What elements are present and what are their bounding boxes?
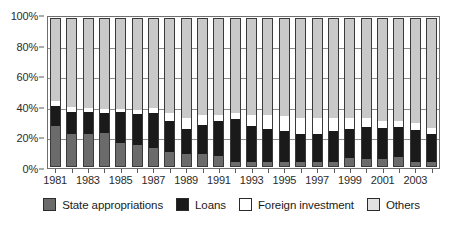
bar-1984[interactable] [99, 18, 110, 167]
chart-legend: State appropriationsLoansForeign investm… [0, 198, 463, 211]
y-axis-tick-label: 100% [11, 10, 38, 22]
bar-segment-others [313, 19, 322, 117]
y-axis-tick-label: 40% [17, 102, 38, 114]
y-axis-tick-label: 0% [23, 163, 39, 175]
bar-segment-state [84, 134, 93, 166]
bar-segment-others [51, 19, 60, 101]
legend-item-label: State appropriations [62, 199, 163, 211]
bar-1994[interactable] [262, 18, 273, 167]
bar-segment-state [280, 162, 289, 166]
bar-segment-loans [394, 127, 403, 157]
bar-segment-state [165, 152, 174, 166]
bar-1993[interactable] [246, 18, 257, 167]
x-axis-tick-label: 1999 [338, 174, 362, 186]
bar-1997[interactable] [312, 18, 323, 167]
x-axis-tick-mark [399, 169, 400, 173]
bar-segment-loans [263, 129, 272, 162]
x-axis-tick-label: 1985 [109, 174, 133, 186]
bar-1982[interactable] [66, 18, 77, 167]
bar-2000[interactable] [361, 18, 372, 167]
bar-segment-others [329, 19, 338, 117]
bar-segment-others [100, 19, 109, 109]
bar-1999[interactable] [344, 18, 355, 167]
x-axis-tick-mark [317, 169, 318, 173]
bar-segment-others [116, 19, 125, 109]
bar-segment-loans [329, 131, 338, 161]
bar-1986[interactable] [132, 18, 143, 167]
bar-segment-others [149, 19, 158, 108]
x-axis-tick-mark [55, 169, 56, 173]
legend-swatch-icon [43, 198, 56, 211]
bar-segment-others [362, 19, 371, 117]
bar-segment-loans [149, 113, 158, 148]
bar-segment-state [313, 162, 322, 166]
bar-1985[interactable] [115, 18, 126, 167]
bar-segment-foreign [182, 118, 191, 129]
bar-segment-foreign [378, 121, 387, 128]
bar-1992[interactable] [230, 18, 241, 167]
x-axis-tick-label: 1995 [273, 174, 297, 186]
x-axis-tick-label: 1987 [142, 174, 166, 186]
legend-item-1[interactable]: Loans [176, 198, 226, 211]
plot-area [47, 16, 440, 169]
x-axis-tick-mark [203, 169, 204, 173]
bar-1991[interactable] [213, 18, 224, 167]
x-axis-tick-mark [268, 169, 269, 173]
bar-segment-state [133, 145, 142, 166]
bar-segment-others [296, 19, 305, 117]
x-axis-tick-mark [366, 169, 367, 173]
bar-segment-others [263, 19, 272, 115]
bar-segment-foreign [296, 118, 305, 134]
legend-item-label: Foreign investment [258, 199, 354, 211]
legend-item-2[interactable]: Foreign investment [239, 198, 354, 211]
y-axis-tick-mark [39, 107, 44, 108]
x-axis-tick-mark [104, 169, 105, 173]
y-axis-tick-mark [39, 77, 44, 78]
y-axis-tick-mark [39, 169, 44, 170]
bar-2002[interactable] [393, 18, 404, 167]
bar-segment-loans [116, 112, 125, 143]
bar-1987[interactable] [148, 18, 159, 167]
bar-segment-foreign [411, 123, 420, 130]
y-axis-tick-mark [39, 16, 44, 17]
bar-segment-state [214, 156, 223, 166]
bar-segment-others [133, 19, 142, 110]
x-axis-tick-label: 1981 [43, 174, 67, 186]
bar-segment-foreign [214, 115, 223, 122]
bar-segment-loans [100, 113, 109, 133]
x-axis-tick-mark [383, 169, 384, 173]
bar-2004[interactable] [426, 18, 437, 167]
legend-item-0[interactable]: State appropriations [43, 198, 163, 211]
y-axis-tick-label: 80% [17, 41, 38, 53]
bar-segment-loans [214, 121, 223, 156]
bar-1996[interactable] [295, 18, 306, 167]
x-axis-tick-label: 1993 [240, 174, 264, 186]
bar-segment-foreign [329, 118, 338, 132]
x-axis-tick-label: 1991 [207, 174, 231, 186]
x-axis-tick-mark [72, 169, 73, 173]
legend-item-3[interactable]: Others [367, 198, 420, 211]
x-axis-tick-label: 1997 [305, 174, 329, 186]
bar-1989[interactable] [181, 18, 192, 167]
bar-segment-loans [67, 112, 76, 133]
bar-1988[interactable] [164, 18, 175, 167]
bar-1990[interactable] [197, 18, 208, 167]
bar-segment-others [214, 19, 223, 115]
bar-1998[interactable] [328, 18, 339, 167]
bar-1983[interactable] [83, 18, 94, 167]
bar-segment-foreign [313, 118, 322, 135]
bar-segment-state [427, 162, 436, 166]
bar-segment-foreign [345, 118, 354, 130]
bar-2003[interactable] [410, 18, 421, 167]
bar-segment-others [345, 19, 354, 117]
bar-2001[interactable] [377, 18, 388, 167]
bar-segment-state [296, 162, 305, 166]
bar-segment-loans [427, 134, 436, 163]
bar-1995[interactable] [279, 18, 290, 167]
x-axis-tick-mark [186, 169, 187, 173]
y-axis: 0%20%40%60%80%100% [0, 16, 44, 169]
bar-1981[interactable] [50, 18, 61, 167]
x-axis-tick-mark [235, 169, 236, 173]
y-axis-tick-label: 60% [17, 71, 38, 83]
legend-item-label: Others [386, 199, 420, 211]
